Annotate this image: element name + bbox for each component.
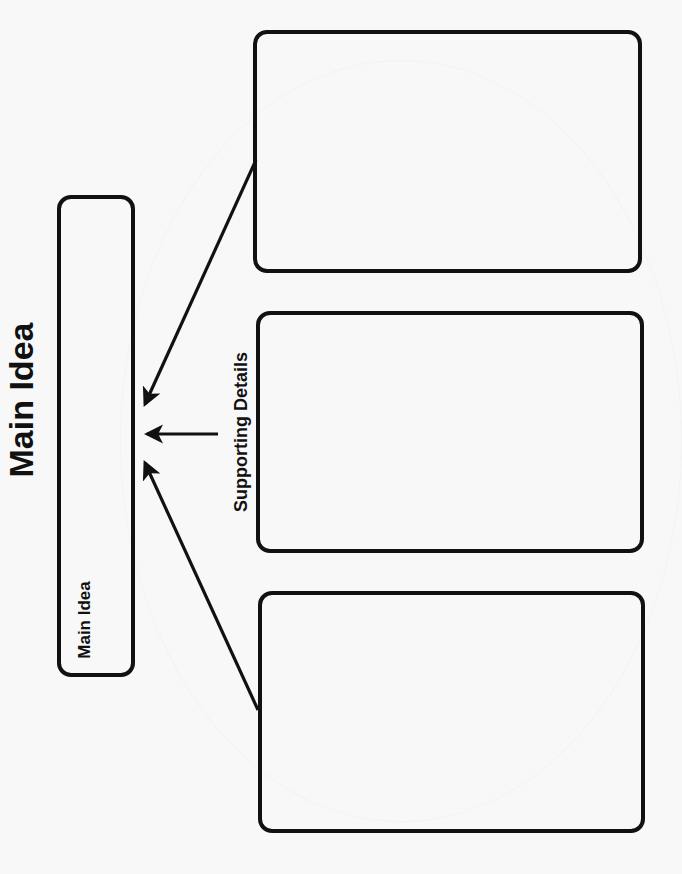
detail-box-2[interactable] bbox=[256, 311, 644, 553]
worksheet-page: Main Idea Main Idea Supporting Details bbox=[0, 0, 682, 874]
main-idea-box[interactable] bbox=[57, 195, 135, 677]
detail-box-3[interactable] bbox=[258, 591, 645, 833]
page-title: Main Idea bbox=[2, 323, 41, 478]
main-idea-box-label: Main Idea bbox=[75, 581, 95, 658]
detail-box-1[interactable] bbox=[253, 30, 642, 273]
supporting-details-label: Supporting Details bbox=[231, 352, 252, 512]
